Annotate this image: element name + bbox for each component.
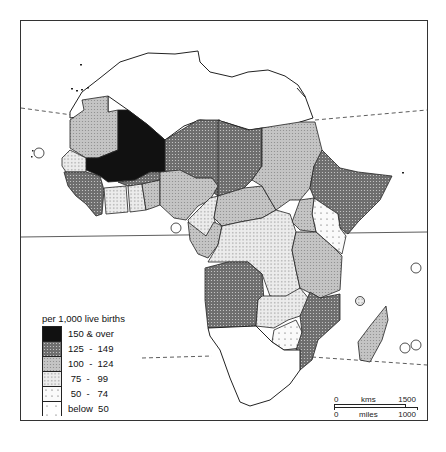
legend-item-125-149: 125 - 149	[42, 341, 152, 356]
scale-kms-end: 1500	[398, 395, 416, 404]
sao-tome-marker	[171, 223, 181, 233]
legend-item-below-50: below 50	[42, 401, 152, 416]
legend-title: per 1,000 live births	[42, 313, 152, 324]
legend-swatch-very-sparse-dots	[42, 401, 62, 416]
scale-miles-label: miles	[359, 410, 378, 419]
cape-verde-marker	[34, 148, 44, 158]
scale-kms-label: kms	[361, 395, 376, 404]
tropic-of-capricorn-west	[142, 356, 212, 358]
comoros-marker	[356, 297, 365, 306]
legend-swatch-light-dots	[42, 371, 62, 386]
legend-swatch-sparse-dots	[42, 386, 62, 401]
legend-item-100-124: 100 - 124	[42, 356, 152, 371]
legend-swatch-dark-dots	[42, 341, 62, 356]
scale-bar: 0 kms 1500 0 miles 1000	[334, 395, 424, 419]
legend-item-50-74: 50 - 74	[42, 386, 152, 401]
legend-item-150-over: 150 & over	[42, 326, 152, 341]
scale-bar-lines	[334, 404, 416, 410]
scale-kms-start: 0	[334, 395, 338, 404]
legend: per 1,000 live births 150 & over 125 - 1…	[42, 313, 152, 416]
tropic-of-cancer-west	[21, 108, 72, 115]
legend-swatch-medium-dots	[42, 356, 62, 371]
mauritius-marker	[400, 343, 410, 353]
scale-miles-start: 0	[334, 410, 338, 419]
legend-item-75-99: 75 - 99	[42, 371, 152, 386]
reunion-marker	[411, 340, 421, 350]
legend-swatch-black	[42, 326, 62, 341]
scale-miles-end: 1000	[398, 410, 416, 419]
tropic-of-cancer-east	[315, 110, 427, 120]
seychelles-marker	[411, 263, 421, 273]
